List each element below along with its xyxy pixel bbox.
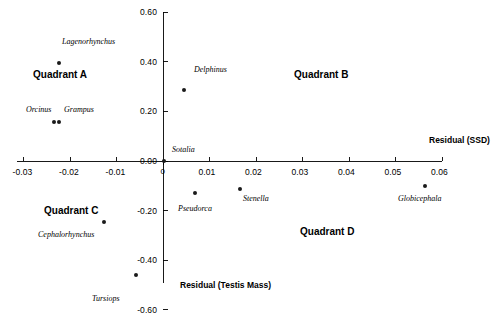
y-tick-label: 0.00	[135, 157, 157, 166]
y-tick-label: -0.20	[135, 207, 157, 216]
x-tick-label: 0.02	[245, 168, 262, 177]
x-tick-label-origin: 0	[161, 168, 166, 176]
x-tick-label: 0.01	[199, 168, 216, 177]
y-tick-label: 0.60	[135, 8, 157, 17]
x-tick-label: 0.03	[292, 168, 309, 177]
y-tick-label: 0.40	[135, 58, 157, 67]
y-tick-label: -0.60	[135, 306, 157, 315]
scatter-plot: LagenorhynchusOrcinusGrampusDelphinusSot…	[0, 0, 497, 317]
tick-labels-layer: -0.03-0.02-0.0100.010.020.030.040.050.06…	[0, 0, 497, 317]
x-tick-label: 0.04	[338, 168, 355, 177]
y-axis-title: Residual (Testis Mass)	[180, 281, 271, 290]
x-tick-label: 0.06	[431, 168, 448, 177]
x-axis-title: Residual (SSD)	[429, 136, 490, 145]
x-tick-label: -0.01	[106, 168, 126, 177]
x-tick-label: -0.02	[59, 168, 79, 177]
x-tick-label: 0.05	[385, 168, 402, 177]
x-tick-label: -0.03	[13, 168, 33, 177]
y-tick-label: -0.40	[135, 256, 157, 265]
y-tick-label: 0.20	[135, 107, 157, 116]
